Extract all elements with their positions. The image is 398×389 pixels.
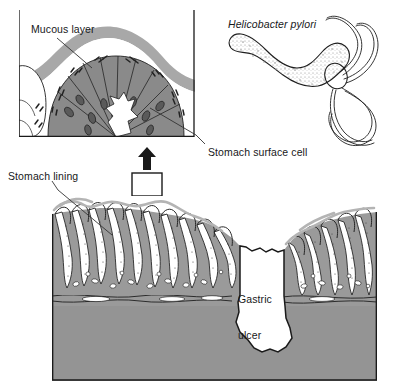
helicobacter-pylori-illustration bbox=[229, 16, 378, 145]
stomach-surface-cell-label: Stomach surface cell bbox=[208, 146, 307, 158]
figure-root: Mucous layer Helicobacter pylori Stomach… bbox=[0, 0, 398, 389]
stomach-wall-cross-section bbox=[52, 196, 377, 381]
stomach-lining-leader-line-a bbox=[52, 181, 58, 190]
bacterium-flagella bbox=[326, 16, 378, 145]
stomach-surface-cell-leader-line-a bbox=[196, 135, 205, 144]
helicobacter-pylori-label: Helicobacter pylori bbox=[228, 18, 316, 30]
gastric-ulcer-label-line2: ulcer bbox=[238, 329, 272, 341]
bacterium-body bbox=[229, 34, 349, 87]
magnification-region-box bbox=[132, 173, 162, 196]
gastric-ulcer-label-line1: Gastric bbox=[238, 293, 272, 305]
gastric-ulcer-label: Gastric ulcer bbox=[238, 269, 272, 365]
magnification-arrow-up bbox=[138, 147, 156, 170]
mucous-layer-label: Mucous layer bbox=[31, 23, 95, 35]
stomach-lining-label: Stomach lining bbox=[8, 170, 78, 182]
diagram-canvas bbox=[0, 0, 398, 389]
muscularis-layer bbox=[52, 300, 377, 381]
